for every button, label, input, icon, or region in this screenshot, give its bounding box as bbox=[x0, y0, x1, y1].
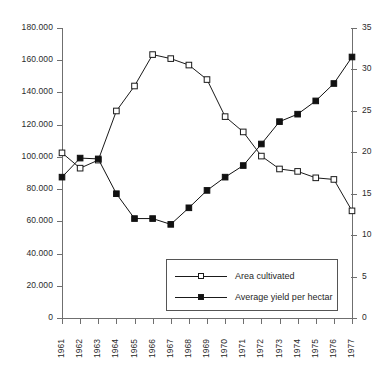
legend-item-area-cultivated: Area cultivated bbox=[175, 270, 295, 282]
data-point-marker bbox=[186, 205, 192, 211]
data-point-marker bbox=[259, 141, 265, 147]
data-point-marker bbox=[59, 150, 65, 156]
data-point-marker bbox=[77, 165, 83, 171]
data-point-marker bbox=[132, 83, 138, 89]
data-point-marker bbox=[295, 111, 301, 117]
legend-item-average-yield: Average yield per hectar bbox=[175, 291, 332, 303]
data-point-marker bbox=[168, 222, 174, 228]
data-point-marker bbox=[313, 98, 319, 104]
data-point-marker bbox=[277, 166, 283, 172]
chart-legend: Area cultivated Average yield per hectar bbox=[166, 259, 338, 311]
data-point-marker bbox=[150, 52, 156, 58]
data-point-marker bbox=[240, 129, 246, 135]
data-point-marker bbox=[259, 153, 265, 159]
legend-label-average-yield: Average yield per hectar bbox=[235, 292, 332, 302]
data-point-marker bbox=[150, 216, 156, 222]
legend-marker-open-square bbox=[175, 270, 227, 282]
data-point-marker bbox=[331, 81, 337, 87]
legend-label-area-cultivated: Area cultivated bbox=[235, 271, 295, 281]
data-point-marker bbox=[186, 62, 192, 68]
data-point-marker bbox=[277, 119, 283, 125]
data-point-marker bbox=[168, 56, 174, 62]
data-point-marker bbox=[204, 77, 210, 83]
data-point-marker bbox=[59, 174, 65, 180]
plot-area bbox=[0, 0, 386, 367]
data-point-marker bbox=[95, 156, 101, 162]
chart-container: 020.00040.00060.00080.000100.000120.0001… bbox=[0, 0, 386, 367]
data-point-marker bbox=[114, 108, 120, 114]
data-point-marker bbox=[313, 175, 319, 181]
legend-marker-filled-square bbox=[175, 291, 227, 303]
data-point-marker bbox=[349, 208, 355, 214]
data-point-marker bbox=[132, 216, 138, 222]
data-point-marker bbox=[77, 155, 83, 161]
data-point-marker bbox=[349, 54, 355, 60]
data-point-marker bbox=[295, 169, 301, 175]
data-point-marker bbox=[204, 188, 210, 194]
data-point-marker bbox=[240, 163, 246, 169]
data-point-marker bbox=[222, 174, 228, 180]
data-point-marker bbox=[114, 191, 120, 197]
data-point-marker bbox=[331, 177, 337, 183]
data-point-marker bbox=[222, 114, 228, 120]
